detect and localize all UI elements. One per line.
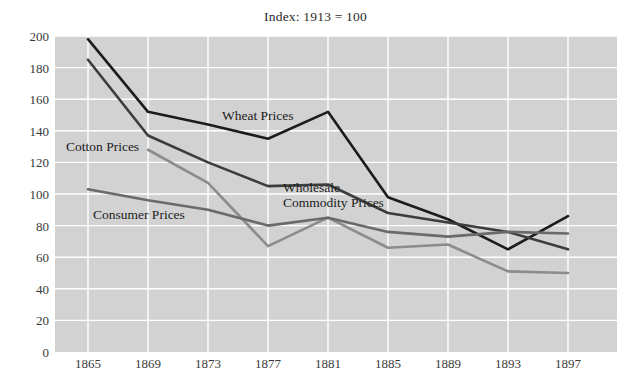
x-axis: 186518691873187718811885188918931897 (55, 356, 617, 378)
y-tick-label: 80 (3, 219, 49, 232)
y-tick-label: 200 (3, 30, 49, 43)
y-tick-label: 20 (3, 314, 49, 327)
series-annotation-wheat-prices: Wheat Prices (222, 108, 294, 123)
chart-container: Index: 1913 = 100 0204060801001201401601… (0, 0, 631, 387)
y-axis: 020406080100120140160180200 (0, 36, 49, 352)
x-tick-label: 1889 (418, 356, 478, 372)
x-tick-label: 1873 (178, 356, 238, 372)
x-tick-label: 1897 (538, 356, 598, 372)
series-annotation-consumer-prices: Consumer Prices (93, 207, 185, 222)
x-tick-label: 1865 (58, 356, 118, 372)
y-tick-label: 100 (3, 188, 49, 201)
x-tick-label: 1885 (358, 356, 418, 372)
y-tick-label: 40 (3, 282, 49, 295)
y-tick-label: 160 (3, 93, 49, 106)
y-tick-label: 180 (3, 61, 49, 74)
y-tick-label: 0 (3, 346, 49, 359)
y-tick-label: 120 (3, 156, 49, 169)
chart-title: Index: 1913 = 100 (0, 9, 631, 25)
series-annotation-wholesale: Wholesale Commodity Prices (283, 180, 384, 210)
x-tick-label: 1881 (298, 356, 358, 372)
x-tick-label: 1877 (238, 356, 298, 372)
series-annotation-cotton-prices: Cotton Prices (66, 139, 139, 154)
x-tick-label: 1869 (118, 356, 178, 372)
y-tick-label: 60 (3, 251, 49, 264)
y-tick-label: 140 (3, 124, 49, 137)
x-tick-label: 1893 (478, 356, 538, 372)
